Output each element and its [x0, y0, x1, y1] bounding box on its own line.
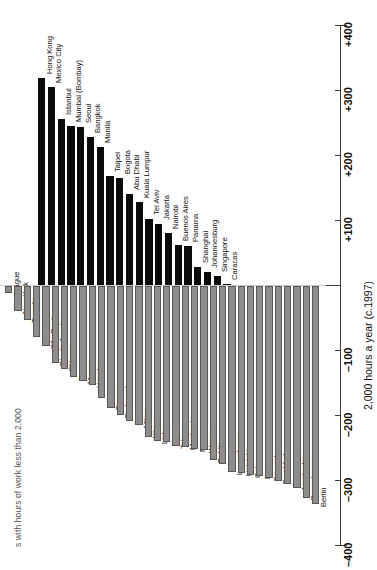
bar [312, 286, 319, 504]
bar-label: Manila [103, 121, 112, 143]
bar [135, 286, 142, 425]
chart-canvas: s with hours of work less than 2,000 Hon… [0, 0, 377, 570]
bar [48, 87, 55, 285]
axis-tick-label: +300 [342, 87, 354, 112]
bar [106, 176, 113, 285]
bar-label: Istanbul [64, 89, 73, 116]
bar [126, 194, 133, 285]
bar [175, 245, 182, 285]
bar [256, 286, 263, 476]
bar-label: Berlin [319, 488, 328, 507]
bar [172, 286, 179, 446]
bar [154, 286, 161, 441]
bar [155, 224, 162, 285]
axis-tick [335, 350, 341, 351]
axis-tick-label: –300 [342, 478, 354, 502]
bar [136, 202, 143, 285]
bar [275, 286, 282, 481]
bar-label: Nairobi [171, 205, 180, 229]
axis-caption: 2,000 hours a year (c.1997) [362, 281, 374, 410]
bar [163, 286, 170, 442]
bar [191, 286, 198, 449]
bar-label: Hong Kong [45, 36, 54, 74]
axis-tick [335, 545, 341, 546]
bar-label: Abu Dhabi [132, 155, 141, 190]
bar-label: Taipei [113, 152, 122, 172]
bar-label: Bogota [123, 150, 132, 174]
axis-tick-label: –400 [342, 543, 354, 567]
bar [58, 119, 65, 285]
value-axis: 2,000 hours a year (c.1997) +400+300+200… [332, 0, 377, 570]
bar [214, 276, 221, 285]
bar-label: Johannesburg [210, 220, 219, 268]
bar [223, 284, 230, 285]
bar-label: Panama [191, 214, 200, 242]
plot-area: Hong KongMexico CityIstanbulMumbai (Bomb… [0, 0, 330, 570]
bar [145, 219, 152, 285]
bar-label: Seoul [84, 104, 93, 123]
axis-tick-label: –100 [342, 348, 354, 372]
bar-label: Mumbai (Bombay) [74, 60, 83, 122]
bar [194, 267, 201, 285]
bar [87, 137, 94, 285]
bar [77, 127, 84, 285]
axis-tick [335, 90, 341, 91]
axis-tick-label: +100 [342, 217, 354, 242]
bar [38, 78, 45, 285]
axis-tick-zero [326, 285, 341, 286]
bar [284, 286, 291, 484]
bar [265, 286, 272, 478]
bar [238, 286, 245, 473]
bar-label: Caracas [230, 251, 239, 279]
bar-label: Shanghai [201, 231, 210, 263]
bar-label: Buenos Aires [181, 196, 190, 241]
bar-label: Jakarta [162, 195, 171, 220]
bar [67, 126, 74, 285]
axis-tick-label: +400 [342, 22, 354, 47]
axis-tick [335, 480, 341, 481]
axis-tick [335, 155, 341, 156]
axis-tick-label: –200 [342, 413, 354, 437]
bar-label: Kuala Lumpur [142, 151, 151, 198]
bar [219, 286, 226, 464]
bar-label: Bangkok [93, 103, 102, 133]
axis-tick-label: +200 [342, 152, 354, 177]
axis-tick [335, 415, 341, 416]
bar [184, 246, 191, 285]
bar [247, 286, 254, 475]
bar-label: Tel Aviv [152, 189, 161, 215]
axis-tick [335, 220, 341, 221]
bar [165, 233, 172, 285]
bar [210, 286, 217, 460]
bar [116, 178, 123, 285]
bar [204, 272, 211, 285]
bar-label: Mexico City [54, 44, 63, 83]
bar-label: Singapore [220, 237, 229, 272]
axis-tick [335, 25, 341, 26]
bar [145, 286, 152, 437]
bar [97, 147, 104, 285]
